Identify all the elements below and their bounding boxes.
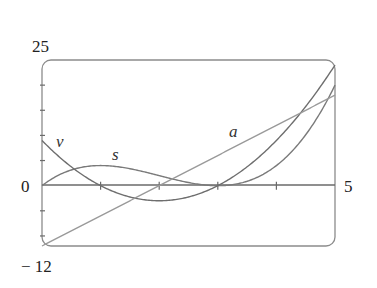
curve-a [42,95,335,246]
acceleration-label: a [229,122,238,141]
curves [42,65,335,246]
curve-v [42,65,335,201]
x-origin-label: 0 [21,177,30,196]
x-max-label: 5 [344,177,353,196]
position-label: s [112,145,119,164]
y-max-label: 25 [32,37,49,56]
y-min-label: − 12 [21,257,52,276]
motion-graph: 25 − 12 0 5 v s a [0,0,377,288]
velocity-label: v [56,132,64,151]
